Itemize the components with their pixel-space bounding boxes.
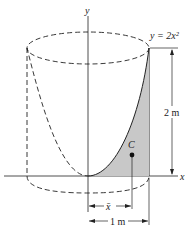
arrow-right-icon (142, 219, 148, 223)
y-axis-label: y (84, 5, 90, 16)
arrow-right-icon (125, 204, 131, 208)
height-dim-label: 2 m (164, 107, 180, 118)
arrow-up-icon (170, 49, 174, 55)
arrow-down-icon (170, 169, 174, 175)
x-axis-label: x (179, 171, 185, 182)
paraboloid-figure: C 2 m x̄ 1 m y x y = 2x² (0, 0, 188, 245)
width-dim-label: 1 m (110, 216, 126, 227)
centroid-point (130, 153, 135, 158)
centroid-label: C (128, 139, 135, 150)
xbar-label: x̄ (105, 201, 111, 212)
arrow-left-icon (89, 204, 95, 208)
curve-label: y = 2x² (149, 30, 180, 41)
parabola-left (27, 48, 88, 176)
shaded-area (88, 48, 149, 176)
arrow-left-icon (89, 219, 95, 223)
